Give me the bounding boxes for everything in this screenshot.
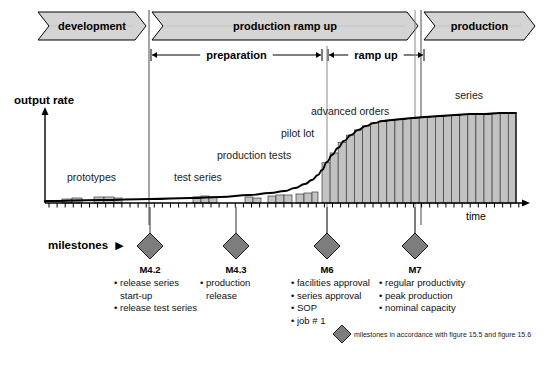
ramp-bar xyxy=(354,130,362,203)
bracket-label-preparation: preparation xyxy=(206,50,267,61)
x-axis-arrowhead xyxy=(522,200,530,207)
ramp-bar xyxy=(419,117,427,203)
curve-label-prototypes: prototypes xyxy=(67,172,116,183)
ramp-bar xyxy=(363,126,371,203)
ramp-up-diagram: development production ramp up productio… xyxy=(0,0,545,365)
milestone-bullet: • production xyxy=(200,277,250,290)
milestones-row-label: milestones ▶ xyxy=(48,240,124,252)
milestone-bullet: release xyxy=(200,290,250,303)
curve-label-production-tests: production tests xyxy=(217,150,291,161)
early-bar-11 xyxy=(276,195,284,203)
milestone-diamond-m43 xyxy=(223,233,249,259)
early-bar-10 xyxy=(268,196,276,203)
milestone-bullet: • peak production xyxy=(379,290,465,303)
milestone-bullets-m7: • regular productivity• peak production•… xyxy=(379,277,465,315)
curve-label-advanced-orders: advanced orders xyxy=(311,106,389,117)
milestone-diamond-m7 xyxy=(402,233,428,259)
ramp-bar xyxy=(387,120,395,203)
ramp-bar xyxy=(395,119,403,203)
ramp-bar xyxy=(492,113,500,203)
ramp-bar xyxy=(379,121,387,203)
ramp-bar xyxy=(508,113,516,203)
milestone-name-m6: M6 xyxy=(320,265,333,275)
milestone-bullet: • job # 1 xyxy=(291,315,370,328)
milestone-bullets-m43: • productionrelease xyxy=(200,277,250,302)
y-axis-title: output rate xyxy=(14,95,74,107)
ramp-bar xyxy=(346,135,354,203)
ramp-bar xyxy=(338,142,346,203)
curve-label-series: series xyxy=(455,90,483,101)
early-bar-8 xyxy=(245,197,253,203)
ramp-bar xyxy=(484,114,492,203)
milestone-diamond-m42 xyxy=(137,233,163,259)
legend-diamond-icon xyxy=(333,325,351,343)
ramp-bar xyxy=(444,116,452,204)
ramp-bar xyxy=(403,118,411,203)
ramp-bar xyxy=(500,113,508,203)
milestones-row-label-text: milestones xyxy=(48,239,108,251)
bracket-preparation-arrowhead-right xyxy=(316,52,321,58)
early-bar-13 xyxy=(296,194,304,203)
ramp-bar xyxy=(468,114,476,203)
early-bar-9 xyxy=(253,198,261,203)
milestone-bullet: • release test series xyxy=(114,302,197,315)
ramp-bar xyxy=(452,115,460,203)
legend-text: milestones in accordance with figure 15.… xyxy=(354,331,531,338)
milestone-name-m42: M4.2 xyxy=(139,265,160,275)
triangle-right-icon: ▶ xyxy=(115,239,123,251)
ramp-bar xyxy=(435,116,443,203)
milestone-bullet: • nominal capacity xyxy=(379,302,465,315)
milestone-bullet: • series approval xyxy=(291,290,370,303)
bracket-label-ramp-up: ramp up xyxy=(354,50,397,61)
ramp-bar xyxy=(476,114,484,203)
milestone-name-m43: M4.3 xyxy=(225,265,246,275)
curve-label-test-series: test series xyxy=(174,172,222,183)
bracket-ramp-up-arrowhead-left xyxy=(329,52,334,58)
milestone-bullet: • regular productivity xyxy=(379,277,465,290)
phase-label-development: development xyxy=(58,21,126,32)
milestone-bullet: • facilities approval xyxy=(291,277,370,290)
ramp-bar xyxy=(411,118,419,203)
milestone-bullet: • release series xyxy=(114,277,197,290)
phase-label-production-ramp-up: production ramp up xyxy=(233,21,337,32)
early-bar-14 xyxy=(304,193,312,203)
curve-label-pilot-lot: pilot lot xyxy=(281,128,314,139)
milestone-diamond-m6 xyxy=(314,233,340,259)
early-bar-15 xyxy=(312,192,318,203)
phase-label-production: production xyxy=(451,21,508,32)
x-axis-title: time xyxy=(466,211,486,222)
ramp-bar xyxy=(427,117,435,203)
milestone-bullets-m42: • release seriesstart-up• release test s… xyxy=(114,277,197,315)
ramp-bar xyxy=(460,114,468,203)
milestone-name-m7: M7 xyxy=(408,265,421,275)
early-bar-12 xyxy=(284,195,292,203)
bracket-preparation-arrowhead-left xyxy=(152,52,157,58)
milestone-bullet: start-up xyxy=(114,290,197,303)
ramp-bar xyxy=(371,123,379,203)
ramp-bars-group xyxy=(322,113,516,203)
milestone-bullets-m6: • facilities approval• series approval• … xyxy=(291,277,370,327)
milestone-bullet: • SOP xyxy=(291,302,370,315)
ramp-bar xyxy=(330,153,338,203)
y-axis-arrowhead xyxy=(42,107,49,115)
